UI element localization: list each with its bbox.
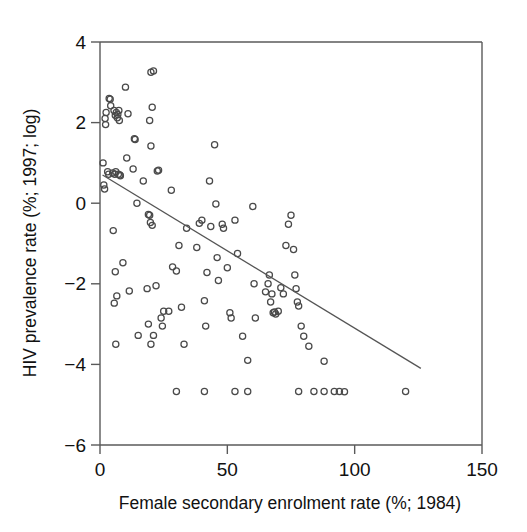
y-axis-title: HIV prevalence rate (%; 1997; log) [20, 109, 40, 377]
chart-figure: 420−2−4−6 050100150 HIV prevalence rate … [0, 0, 527, 532]
y-tick-label: 0 [75, 193, 86, 214]
y-tick-label: −4 [64, 354, 86, 375]
x-tick-label: 50 [217, 459, 238, 480]
y-tick-label: −2 [64, 273, 86, 294]
x-tick-label: 150 [466, 459, 498, 480]
y-tick-label: 2 [75, 112, 86, 133]
x-tick-label: 0 [95, 459, 106, 480]
y-tick-label: 4 [75, 32, 86, 53]
x-axis-title: Female secondary enrolment rate (%; 1984… [119, 493, 461, 513]
x-tick-label: 100 [339, 459, 371, 480]
scatter-plot: 420−2−4−6 050100150 HIV prevalence rate … [0, 0, 527, 532]
y-tick-label: −6 [64, 435, 86, 456]
